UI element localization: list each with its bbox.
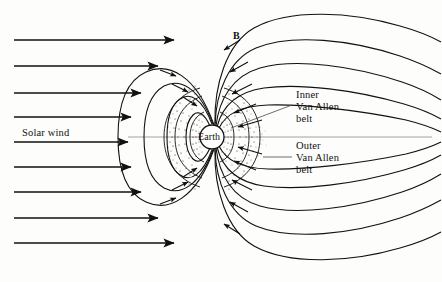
- tail-field-line: [216, 64, 441, 126]
- magnetosphere-diagram: Solar wind B Earth Inner Van Allen belt …: [0, 0, 442, 282]
- earth-label: Earth: [198, 131, 220, 143]
- field-direction-arrow: [232, 84, 252, 94]
- outer-belt-outline-right: [224, 88, 260, 187]
- magnetotail-field-lines-upper: [215, 14, 441, 132]
- outer-belt-label-line1: Outer: [296, 140, 321, 152]
- outer-belt-label-line2: Van Allen: [296, 152, 339, 164]
- magnetic-field-symbol-label: B: [233, 30, 240, 42]
- outer-belt-label-line3: belt: [296, 164, 312, 176]
- inner-belt-label-line3: belt: [296, 113, 312, 125]
- field-direction-arrow: [224, 224, 240, 234]
- inner-belt-label-line2: Van Allen: [296, 101, 339, 113]
- field-direction-arrow: [172, 182, 188, 190]
- outer-belt-outline-left: [164, 88, 200, 187]
- inner-belt-label-line1: Inner: [296, 89, 319, 101]
- diagram-canvas: [0, 0, 442, 282]
- field-direction-arrow: [172, 84, 188, 92]
- field-direction-arrow: [232, 180, 252, 190]
- solar-wind-label: Solar wind: [22, 127, 69, 139]
